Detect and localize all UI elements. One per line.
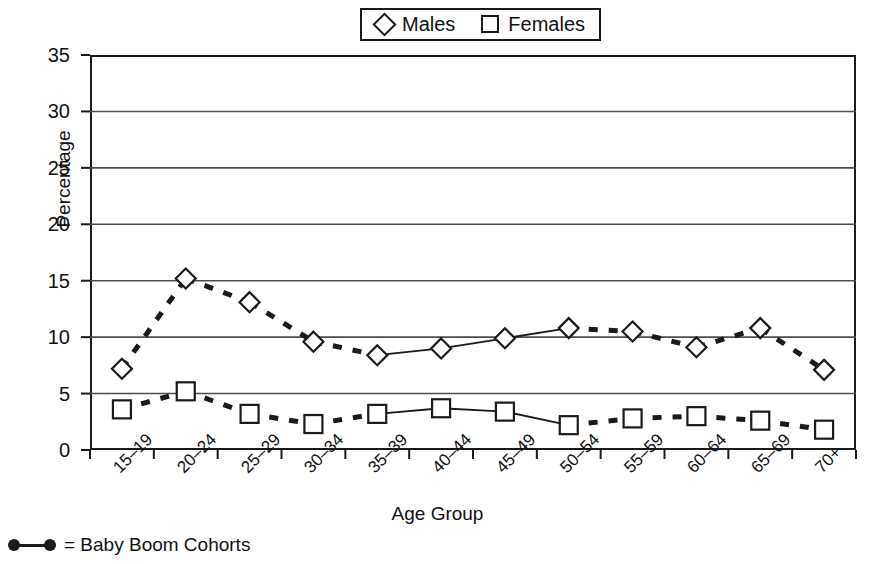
y-tick-label: 0	[24, 440, 70, 460]
y-tick-label: 20	[24, 214, 70, 234]
data-point-marker	[304, 415, 322, 433]
data-point-marker	[751, 412, 769, 430]
series-segment	[250, 302, 314, 342]
data-point-marker	[624, 409, 642, 427]
footnote: = Baby Boom Cohorts	[8, 534, 250, 556]
footnote-text: = Baby Boom Cohorts	[64, 534, 250, 556]
data-point-marker	[686, 337, 706, 357]
data-point-marker	[112, 359, 132, 379]
axis-ticks	[81, 55, 856, 459]
data-point-marker	[559, 318, 579, 338]
data-point-marker	[241, 405, 259, 423]
data-point-marker	[240, 292, 260, 312]
data-point-marker	[495, 328, 515, 348]
data-point-marker	[815, 421, 833, 439]
data-point-marker	[496, 403, 514, 421]
data-point-marker	[560, 416, 578, 434]
data-point-marker	[432, 399, 450, 417]
chart-canvas	[0, 0, 875, 564]
gridlines	[90, 111, 856, 393]
data-point-marker	[113, 400, 131, 418]
data-point-marker	[368, 405, 386, 423]
data-point-marker	[687, 407, 705, 425]
series-markers	[112, 268, 834, 438]
y-tick-label: 5	[24, 384, 70, 404]
y-tick-label: 10	[24, 327, 70, 347]
data-point-marker	[750, 318, 770, 338]
series-segment	[186, 278, 250, 302]
data-point-marker	[623, 322, 643, 342]
series-lines	[122, 278, 824, 429]
y-tick-label: 15	[24, 271, 70, 291]
series-segment	[760, 328, 824, 370]
y-tick-label: 30	[24, 101, 70, 121]
y-tick-label: 35	[24, 45, 70, 65]
chart-container: Males Females Percentage Age Group 05101…	[0, 0, 875, 564]
series-segment	[122, 278, 186, 368]
series-segment	[633, 332, 697, 348]
data-point-marker	[431, 338, 451, 358]
data-point-marker	[367, 345, 387, 365]
data-point-marker	[177, 382, 195, 400]
baby-boom-marker-icon	[8, 538, 56, 552]
series-segment	[313, 342, 377, 356]
y-tick-label: 25	[24, 158, 70, 178]
